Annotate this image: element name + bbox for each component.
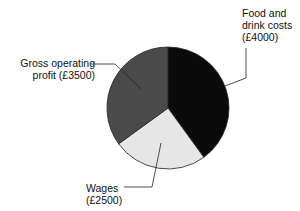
label-food-line1: Food and <box>242 7 292 19</box>
label-wages: Wages (£2500) <box>86 182 122 206</box>
label-wages-line2: (£2500) <box>86 194 122 206</box>
label-food-line3: (£4000) <box>242 31 292 43</box>
label-food-line2: drink costs <box>242 19 292 31</box>
label-gross-line1: Gross operating <box>11 57 95 69</box>
pie-slices <box>107 47 229 169</box>
label-gross-operating-profit: Gross operating profit (£3500) <box>11 57 95 81</box>
label-gross-line2: profit (£3500) <box>11 69 95 81</box>
leader-line-food <box>225 48 246 86</box>
label-food-and-drink-costs: Food and drink costs (£4000) <box>242 7 292 43</box>
label-wages-line1: Wages <box>86 182 122 194</box>
